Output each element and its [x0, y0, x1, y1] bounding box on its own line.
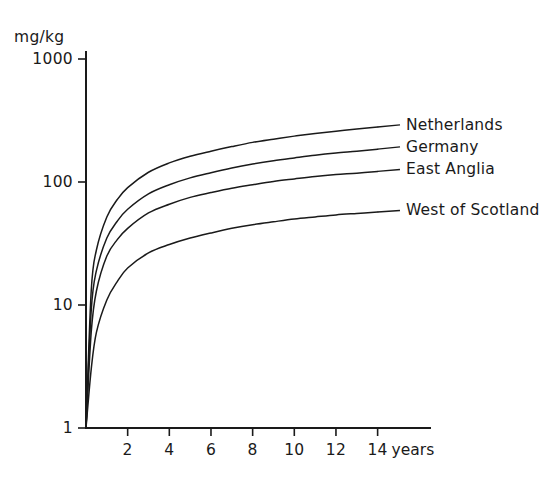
x-tick-label: 2 [123, 441, 133, 459]
series-label: Netherlands [406, 116, 503, 134]
series-leader-line [378, 125, 400, 127]
x-tick-label: 8 [248, 441, 258, 459]
series-label: Germany [406, 138, 479, 156]
series-label: East Anglia [406, 160, 495, 178]
series-curves-group [86, 127, 378, 428]
y-axis-unit-label: mg/kg [14, 28, 64, 46]
x-tick-label: 6 [206, 441, 216, 459]
series-leader-line [378, 169, 400, 171]
y-tick-label: 1 [63, 419, 73, 437]
y-tick-label: 10 [53, 296, 73, 314]
label-leader-lines-group [378, 125, 400, 212]
series-leader-line [378, 147, 400, 149]
chart-plot-area [0, 0, 539, 480]
axes-group [86, 52, 430, 428]
x-tick-label: 10 [284, 441, 304, 459]
x-tick-label: 14 [367, 441, 387, 459]
series-curve [86, 212, 378, 428]
series-leader-line [378, 211, 400, 213]
x-tick-label: 12 [326, 441, 346, 459]
tick-marks-group [78, 59, 378, 436]
x-axis-unit-label: years [392, 441, 435, 459]
y-tick-label: 100 [43, 173, 74, 191]
series-curve [86, 127, 378, 428]
series-curve [86, 149, 378, 428]
x-tick-label: 4 [164, 441, 174, 459]
chart-container: mg/kg 1000100101 2468101214 NetherlandsG… [0, 0, 539, 480]
series-curve [86, 171, 378, 428]
y-tick-label: 1000 [32, 50, 73, 68]
series-label: West of Scotland [406, 201, 539, 219]
